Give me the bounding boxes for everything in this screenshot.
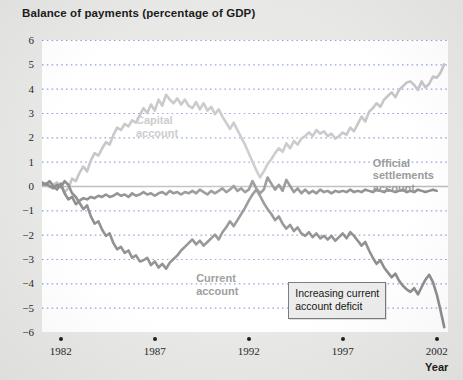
x-tick-dot xyxy=(153,337,157,341)
y-tick-label: 4 xyxy=(12,83,34,95)
y-tick-label: 2 xyxy=(12,131,34,143)
x-tick-dot xyxy=(59,337,63,341)
y-tick-label: −1 xyxy=(12,204,34,216)
y-tick-label: 3 xyxy=(12,107,34,119)
y-tick-label: −6 xyxy=(12,326,34,338)
x-tick-dot xyxy=(247,337,251,341)
y-tick-label: 0 xyxy=(12,180,34,192)
x-tick-dot xyxy=(435,337,439,341)
y-tick-label: −2 xyxy=(12,229,34,241)
x-tick-label: 1992 xyxy=(238,345,260,357)
x-axis-title: Year xyxy=(425,361,448,373)
y-tick-label: 1 xyxy=(12,156,34,168)
annotation-increasing-current-account-deficit: Increasing current account deficit xyxy=(288,282,386,319)
x-tick-dot xyxy=(341,337,345,341)
y-tick-label: 6 xyxy=(12,34,34,46)
x-tick-label: 2002 xyxy=(426,345,448,357)
series-label-capital-account: Capital account xyxy=(136,114,178,139)
y-tick-label: 5 xyxy=(12,58,34,70)
chart-figure: Balance of payments (percentage of GDP) … xyxy=(0,0,463,380)
x-tick-label: 1982 xyxy=(50,345,72,357)
x-tick-label: 1987 xyxy=(144,345,166,357)
y-tick-label: −3 xyxy=(12,253,34,265)
x-tick-label: 1997 xyxy=(332,345,354,357)
chart-title: Balance of payments (percentage of GDP) xyxy=(22,7,255,19)
y-tick-label: −4 xyxy=(12,277,34,289)
series-label-official-settlements-account: Official settlements account xyxy=(373,157,434,195)
series-label-current-account: Current account xyxy=(196,272,238,297)
y-tick-label: −5 xyxy=(12,302,34,314)
